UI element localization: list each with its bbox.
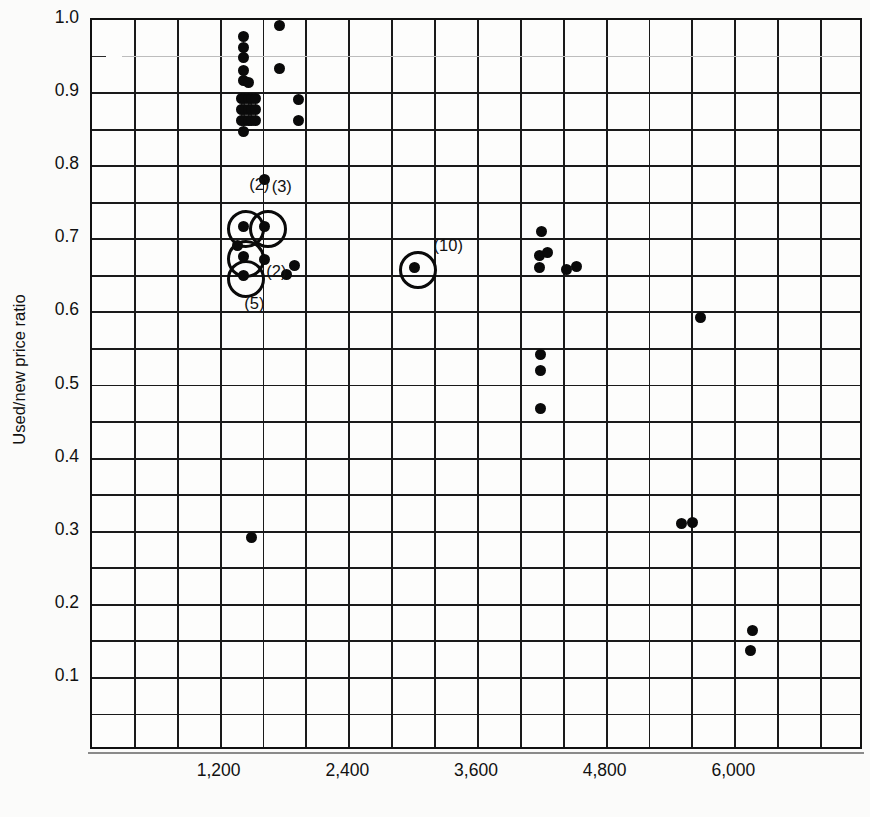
- y-axis-tick-label: 0.3: [55, 521, 79, 539]
- x-axis-tick-label: 3,600: [454, 762, 498, 780]
- axis-baseline-rule: [88, 752, 864, 754]
- data-point: [243, 77, 254, 88]
- grid-line-horizontal: [92, 714, 860, 716]
- y-axis-tick-label: 0.7: [55, 228, 79, 246]
- data-point: [238, 221, 249, 232]
- grid-line-horizontal: [92, 567, 860, 569]
- data-point: [259, 221, 270, 232]
- grid-line-horizontal: [92, 640, 860, 642]
- data-point: [238, 52, 249, 63]
- data-point: [250, 93, 261, 104]
- data-point: [238, 270, 249, 281]
- data-point: [238, 42, 249, 53]
- data-point: [536, 226, 547, 237]
- grid-line-horizontal: [92, 129, 860, 131]
- data-point: [676, 518, 687, 529]
- scatter-plot-figure: Used/new price ratio 1.00.90.80.70.60.50…: [0, 0, 870, 817]
- point-count-annotation: (10): [434, 237, 463, 254]
- point-count-annotation: (5): [244, 295, 264, 312]
- data-point: [542, 247, 553, 258]
- x-axis-tick-label: 6,000: [711, 762, 755, 780]
- data-point: [409, 262, 420, 273]
- y-axis-tick-label: 0.6: [55, 301, 79, 319]
- data-point: [289, 260, 300, 271]
- data-point: [571, 261, 582, 272]
- point-count-annotation: (2): [266, 263, 286, 280]
- x-axis-tick-label: 1,200: [197, 762, 241, 780]
- data-point: [274, 63, 285, 74]
- grid-line-horizontal: [92, 311, 860, 313]
- data-point: [695, 312, 706, 323]
- data-point: [238, 31, 249, 42]
- y-axis-tick-label: 0.8: [55, 155, 79, 173]
- grid-line-horizontal: [92, 494, 860, 496]
- data-point: [246, 532, 257, 543]
- data-point: [747, 625, 758, 636]
- data-point: [535, 365, 546, 376]
- data-point: [250, 104, 261, 115]
- data-point: [293, 115, 304, 126]
- grid-line-horizontal: [92, 458, 860, 460]
- point-count-annotation: (2): [249, 176, 269, 193]
- y-axis-tick-label: 0.2: [55, 594, 79, 612]
- grid-line-horizontal: [92, 385, 860, 387]
- data-point: [745, 645, 756, 656]
- grid-line-horizontal: [92, 677, 860, 679]
- data-point: [238, 126, 249, 137]
- point-count-annotation: (3): [272, 178, 292, 195]
- data-point: [535, 403, 546, 414]
- y-axis-tick-label: 0.4: [55, 448, 79, 466]
- y-axis-tick-label: 0.5: [55, 375, 79, 393]
- data-point: [687, 517, 698, 528]
- grid-line-horizontal: [92, 56, 860, 58]
- data-point: [534, 262, 545, 273]
- grid-line-horizontal: [92, 238, 860, 240]
- data-point: [274, 20, 285, 31]
- grid-line-horizontal: [92, 604, 860, 606]
- data-point: [535, 349, 546, 360]
- grid-line-horizontal: [92, 165, 860, 167]
- data-point: [250, 115, 261, 126]
- grid-line-horizontal: [92, 421, 860, 423]
- grid-line-horizontal: [92, 275, 860, 277]
- y-axis-tick-label: 0.9: [55, 82, 79, 100]
- grid-line-horizontal: [92, 348, 860, 350]
- y-axis-tick-labels: 1.00.90.80.70.60.50.40.30.20.1: [0, 0, 79, 817]
- y-axis-tick-label: 1.0: [55, 9, 79, 27]
- plot-area: (2)(3)(2)(5)(10): [90, 18, 862, 749]
- grid-line-horizontal: [92, 531, 860, 533]
- x-axis-tick-label: 4,800: [583, 762, 627, 780]
- x-axis-tick-label: 2,400: [325, 762, 369, 780]
- y-axis-tick-label: 0.1: [55, 667, 79, 685]
- x-axis-tick-labels: 1,2002,4003,6004,8006,000: [0, 762, 870, 792]
- grid-line-horizontal: [92, 202, 860, 204]
- data-point: [293, 94, 304, 105]
- grid-line-horizontal: [92, 92, 860, 94]
